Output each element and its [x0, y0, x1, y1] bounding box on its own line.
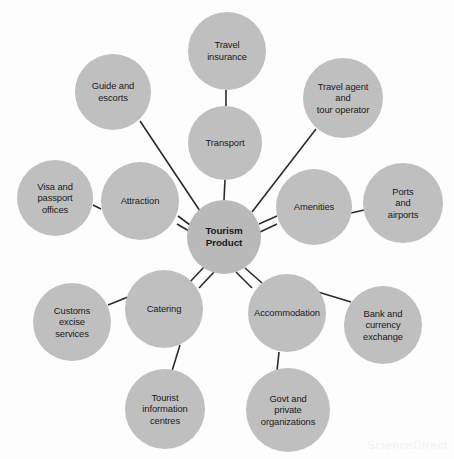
- node-amenities[interactable]: Amenities: [276, 169, 352, 245]
- node-accommodation[interactable]: Accommodation: [248, 274, 326, 352]
- node-label-govt-private: Govt and private organizations: [256, 393, 320, 428]
- node-label-accommodation: Accommodation: [249, 307, 325, 319]
- node-travel-agent[interactable]: Travel agent and tour operator: [303, 58, 383, 138]
- tourism-product-diagram: Travel insuranceTransportGuide and escor…: [0, 0, 454, 459]
- watermark: ScienceDirect: [367, 439, 448, 451]
- node-attraction[interactable]: Attraction: [101, 162, 179, 240]
- node-label-amenities: Amenities: [289, 201, 339, 213]
- node-customs-excise[interactable]: Customs excise services: [33, 283, 111, 361]
- node-label-customs-excise: Customs excise services: [49, 305, 95, 340]
- edge-visa-passport-to-attraction: [93, 205, 101, 209]
- node-label-visa-passport: Visa and passport offices: [32, 181, 78, 216]
- node-catering[interactable]: Catering: [125, 270, 203, 348]
- node-label-attraction: Attraction: [116, 195, 165, 207]
- node-label-tourist-info: Tourist information centres: [137, 392, 192, 427]
- node-visa-passport[interactable]: Visa and passport offices: [17, 160, 93, 236]
- node-label-ports-airports: Ports and airports: [383, 186, 423, 221]
- edge-amenities-to-ports-airports: [351, 210, 364, 213]
- edge-hub-to-accommodation: [236, 272, 252, 288]
- node-label-bank-currency: Bank and currency exchange: [358, 308, 408, 343]
- edge-hub-to-accommodation: [245, 268, 262, 283]
- node-label-guide-escorts: Guide and escorts: [87, 80, 139, 103]
- node-guide-escorts[interactable]: Guide and escorts: [75, 54, 151, 130]
- edge-hub-to-catering: [199, 272, 214, 288]
- node-label-transport: Transport: [201, 137, 250, 149]
- node-transport[interactable]: Transport: [188, 106, 262, 180]
- node-bank-currency[interactable]: Bank and currency exchange: [344, 286, 422, 364]
- edge-transport-to-hub: [224, 180, 225, 200]
- edge-hub-to-amenities: [260, 224, 277, 232]
- hub-node-tourism-product[interactable]: Tourism Product: [187, 200, 261, 274]
- node-travel-insurance[interactable]: Travel insurance: [188, 12, 266, 90]
- node-ports-airports[interactable]: Ports and airports: [363, 163, 443, 243]
- node-govt-private[interactable]: Govt and private organizations: [246, 368, 330, 452]
- hub-node-label: Tourism Product: [200, 225, 247, 249]
- edge-hub-to-amenities: [259, 216, 277, 224]
- edge-catering-to-tourist-info: [172, 345, 180, 371]
- node-label-travel-agent: Travel agent and tour operator: [312, 81, 374, 116]
- node-tourist-info[interactable]: Tourist information centres: [125, 369, 205, 449]
- node-label-travel-insurance: Travel insurance: [202, 39, 252, 62]
- node-label-catering: Catering: [142, 303, 187, 315]
